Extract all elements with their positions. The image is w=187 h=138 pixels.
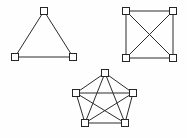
graph-node bbox=[170, 8, 177, 15]
graph-node bbox=[102, 70, 109, 77]
graph-canvas bbox=[0, 0, 187, 138]
graph-node bbox=[12, 54, 19, 61]
graph-node bbox=[123, 8, 130, 15]
figure-root: Complete graphs K3, K4 and K5 bbox=[0, 0, 187, 138]
graph-node bbox=[122, 120, 129, 127]
graph-node bbox=[123, 55, 130, 62]
graph-node bbox=[82, 120, 89, 127]
graph-node bbox=[70, 54, 77, 61]
graph-node bbox=[41, 8, 48, 15]
graph-node bbox=[130, 90, 137, 97]
graph-node bbox=[170, 55, 177, 62]
graph-node bbox=[73, 90, 80, 97]
